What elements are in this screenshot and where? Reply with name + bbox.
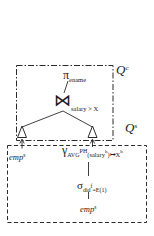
selection-predicate: =E(1) <box>92 187 106 193</box>
aggregation-function: AVG <box>67 152 79 158</box>
client-query-symbol: Q <box>116 62 125 77</box>
decrypt-triangle-right-icon <box>88 126 97 138</box>
aggregation-result-superscript: h <box>120 149 123 154</box>
join-left-edge <box>22 111 63 127</box>
aggregation-arg-open: (salary <box>87 151 105 158</box>
left-relation-name: emp <box>9 152 23 162</box>
base-relation-name: emp <box>80 204 94 214</box>
query-tree-diagram: Qc πename ⋈salary > X Qs emps γAVGPH(sal… <box>0 0 154 236</box>
diagram-shapes-layer <box>0 0 154 236</box>
join-condition: salary > X <box>71 105 98 112</box>
left-relation-superscript: s <box>23 152 25 158</box>
base-relation-superscript: s <box>94 204 96 210</box>
projection-node: πename <box>63 66 86 84</box>
selection-attribute: did <box>83 187 91 193</box>
selection-node: σdidf=E(1) <box>77 176 107 193</box>
client-query-superscript: c <box>125 64 128 72</box>
base-relation: emps <box>80 199 96 215</box>
join-right-edge <box>63 111 93 127</box>
server-query-label: Qs <box>125 119 137 135</box>
left-relation: emps <box>9 147 25 163</box>
join-operator-icon: ⋈ <box>54 90 71 110</box>
client-query-label: Qc <box>116 61 129 77</box>
server-query-superscript: s <box>134 122 137 130</box>
decrypt-triangle-left-icon <box>18 126 27 138</box>
projection-attribute: ename <box>69 76 86 83</box>
server-query-symbol: Q <box>125 120 134 135</box>
join-node: ⋈salary > X <box>54 92 98 113</box>
aggregation-node: γAVGPH(salaryh)↦Xh <box>62 141 123 159</box>
